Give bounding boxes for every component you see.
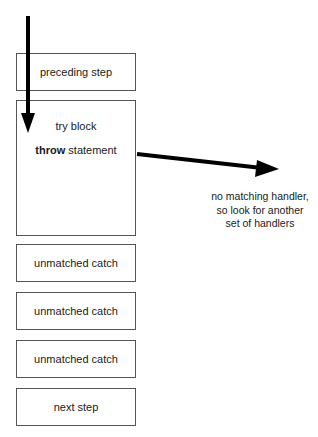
annotation-line-3: set of handlers [200, 217, 318, 231]
throw-propagation-arrow [137, 154, 279, 177]
annotation-line-1: no matching handler, [200, 190, 318, 204]
throw-keyword: throw [35, 144, 65, 156]
unmatched-catch-label-2: unmatched catch [17, 305, 135, 318]
unmatched-catch-box-2: unmatched catch [16, 292, 136, 330]
next-step-box: next step [16, 388, 136, 426]
annotation-line-2: so look for another [200, 204, 318, 218]
try-block-box: try block throw statement [16, 100, 136, 236]
try-block-label: try block [17, 120, 135, 133]
unmatched-catch-box-1: unmatched catch [16, 244, 136, 282]
unmatched-catch-box-3: unmatched catch [16, 340, 136, 378]
unmatched-catch-label-3: unmatched catch [17, 353, 135, 366]
statement-text: statement [65, 144, 116, 156]
unmatched-catch-label-1: unmatched catch [17, 257, 135, 270]
preceding-step-box: preceding step [16, 53, 136, 91]
next-step-label: next step [17, 401, 135, 414]
preceding-step-label: preceding step [17, 66, 135, 79]
throw-statement-label: throw statement [17, 144, 135, 157]
no-handler-annotation: no matching handler, so look for another… [200, 190, 318, 231]
